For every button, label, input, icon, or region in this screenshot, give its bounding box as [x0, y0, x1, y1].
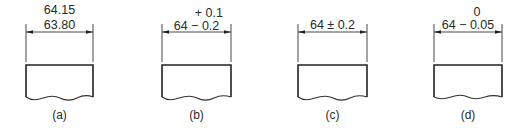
upper-deviation-text: + 0.1 [195, 6, 223, 20]
arrowhead-right-icon [495, 30, 502, 33]
panel-caption: (a) [52, 108, 67, 122]
arrowhead-left-icon [162, 30, 169, 33]
lower-limit-text: 63.80 [44, 18, 75, 32]
part-outline [298, 65, 367, 97]
part-outline [162, 65, 231, 97]
basic-size-lower-deviation-text: 64 − 0.05 [442, 18, 495, 32]
arrowhead-right-icon [360, 30, 367, 33]
panel-a: 64.15 63.80 (a) [26, 3, 93, 122]
upper-limit-text: 64.15 [44, 3, 75, 17]
part-outline [434, 65, 502, 97]
arrowhead-left-icon [298, 30, 305, 33]
panel-b: + 0.1 64 − 0.2 (b) [162, 6, 231, 122]
arrowhead-left-icon [434, 30, 441, 33]
break-line [162, 96, 231, 101]
panel-caption: (c) [326, 108, 340, 122]
panel-caption: (b) [189, 108, 204, 122]
part-outline [26, 65, 93, 97]
break-line [26, 96, 93, 101]
bilateral-tolerance-text: 64 ± 0.2 [310, 18, 355, 32]
upper-deviation-text: 0 [474, 5, 481, 19]
tolerance-diagram: 64.15 63.80 (a) + 0.1 64 − 0.2 (b) 64 ± … [0, 0, 524, 128]
arrowhead-right-icon [86, 30, 93, 33]
panel-c: 64 ± 0.2 (c) [298, 18, 367, 122]
break-line [434, 95, 502, 99]
arrowhead-right-icon [224, 30, 231, 33]
panel-caption: (d) [461, 108, 476, 122]
break-line [298, 96, 367, 101]
basic-size-lower-deviation-text: 64 − 0.2 [174, 19, 220, 33]
panel-d: 0 64 − 0.05 (d) [434, 5, 502, 122]
arrowhead-left-icon [26, 30, 33, 33]
